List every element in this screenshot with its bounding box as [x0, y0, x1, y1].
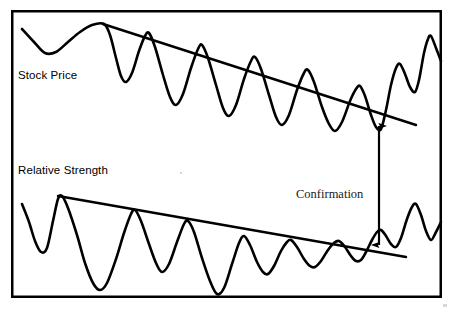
confirmation-label: Confirmation [296, 187, 364, 201]
scan-corner-artifact [443, 304, 447, 307]
relative-strength-label: Relative Strength [18, 164, 108, 176]
stock-price-curve [22, 23, 441, 131]
scan-speck-artifact [180, 172, 182, 174]
stock-price-label: Stock Price [18, 69, 77, 81]
technical-analysis-diagram: Stock Price Relative Strength Confirmati… [0, 0, 452, 313]
stock-price-downtrend-line [103, 24, 416, 125]
relative-strength-downtrend-line [58, 196, 406, 257]
diagram-border [12, 11, 441, 297]
diagram-canvas: Stock Price Relative Strength Confirmati… [0, 0, 452, 313]
